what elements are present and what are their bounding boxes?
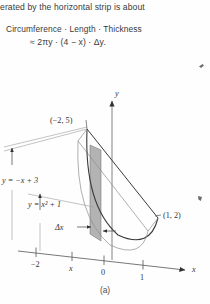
x-axis: [18, 248, 185, 271]
shaded-strip: [90, 145, 101, 241]
x-tick-label-0: 0: [101, 268, 105, 277]
parabola-equation-label: y = x² + 1: [27, 200, 61, 209]
formula-math: ≈ 2πy · (4 − x) · Δy.: [30, 37, 106, 47]
body-text-line: erated by the horizontal strip is about: [0, 2, 190, 13]
formula-words: Circumference · Length · Thickness: [6, 24, 142, 34]
x-tick-label-minus2: −2: [31, 260, 40, 269]
y-axis-label: y: [114, 89, 119, 98]
figure-solid-of-revolution: −2 x 0 1 x y: [0, 55, 210, 304]
x-tick-label-x: x: [68, 264, 73, 273]
x-axis-label: x: [191, 265, 196, 274]
figure-caption: (a): [0, 285, 210, 295]
line-equation-label: y = −x + 3: [1, 176, 38, 185]
textbook-page: erated by the horizontal strip is about …: [0, 0, 210, 304]
point-label-upper: (−2, 5): [50, 116, 73, 125]
figure-canvas: −2 x 0 1 x y: [0, 55, 210, 304]
delta-x-label: Δx: [54, 223, 64, 232]
point-leader-upper: [86, 120, 87, 129]
x-tick-label-1: 1: [140, 273, 144, 282]
point-label-lower: (1, 2): [163, 211, 181, 220]
